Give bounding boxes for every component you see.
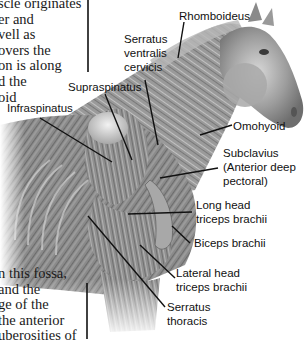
body-text-line: ge of the (0, 297, 77, 313)
body-text-line: on is along (0, 58, 81, 74)
body-text-line: overs the (0, 43, 81, 59)
label-biceps-brachii: Biceps brachii (194, 236, 266, 250)
body-text-line: vell as (0, 27, 81, 43)
body-text-line: and the (0, 282, 77, 298)
body-text-line: n this fossa, (0, 266, 77, 282)
label-rhomboideus: Rhomboideus (179, 9, 250, 23)
label-long-head-triceps: Long head triceps brachii (196, 198, 267, 226)
body-text-line: er and (0, 12, 81, 28)
body-text-bottom: n this fossa, and the ge of the the ante… (0, 266, 77, 344)
label-supraspinatus: Supraspinatus (68, 80, 142, 94)
label-lateral-head-triceps: Lateral head triceps brachii (176, 266, 247, 294)
label-serratus-ventralis-cervicis: Serratus ventralis cervicis (124, 32, 167, 74)
label-serratus-thoracis: Serratus thoracis (167, 300, 210, 328)
label-infraspinatus: Infraspinatus (7, 101, 73, 115)
horse-eye (259, 49, 269, 55)
label-subclavius: Subclavius (Anterior deep pectoral) (223, 146, 296, 188)
body-text-line: scle originates (0, 0, 81, 12)
body-text-line: uberosities of (0, 328, 77, 344)
body-text-line: the anterior (0, 313, 77, 329)
label-omohyoid: Omohyoid (233, 119, 285, 133)
